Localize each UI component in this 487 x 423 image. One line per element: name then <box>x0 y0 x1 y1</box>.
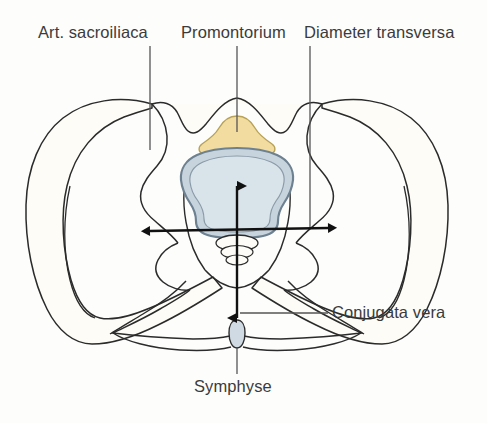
left-ilium <box>26 100 222 344</box>
label-diameter-transversa: Diameter transversa <box>304 23 454 42</box>
diameter-transversa-arrow <box>150 228 328 231</box>
right-sacroiliac-joint <box>296 104 333 243</box>
pubic-symphysis <box>229 320 245 348</box>
label-symphyse: Symphyse <box>194 377 272 396</box>
label-art-sacroiliaca: Art. sacroiliaca <box>38 23 148 42</box>
left-sacroiliac-joint <box>141 104 178 243</box>
pelvis-illustration <box>0 0 487 423</box>
anatomical-figure: Art. sacroiliaca Promontorium Diameter t… <box>0 0 487 423</box>
label-promontorium: Promontorium <box>181 23 286 42</box>
label-conjugata-vera: Conjugata vera <box>332 303 445 322</box>
